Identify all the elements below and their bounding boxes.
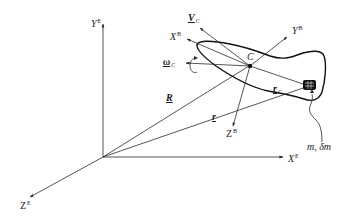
mass-element-icon: [303, 80, 316, 90]
earth-y-superscript: E: [98, 18, 102, 24]
aircraft-body-outline: [197, 41, 326, 100]
earth-x-axis-label: XE: [288, 153, 299, 164]
body-z-symbol: Z: [226, 128, 232, 139]
angular-velocity-label: ωC: [163, 57, 175, 68]
angular-velocity-symbol: ω: [163, 56, 170, 67]
earth-z-symbol: Z: [20, 200, 26, 211]
rotation-arrowhead-icon: [194, 56, 198, 60]
body-z-superscript: B: [233, 128, 237, 134]
position-R-label: R: [166, 93, 173, 103]
earth-z-axis-label: ZE: [20, 200, 31, 211]
mass-element-label: m, δm: [307, 142, 331, 152]
body-z-axis: [233, 66, 250, 126]
center-of-mass-symbol: C: [247, 51, 254, 62]
angular-velocity-subscript: C: [171, 62, 175, 68]
vector-r-line: [103, 87, 306, 157]
body-z-axis-label: ZB: [226, 128, 237, 139]
earth-y-symbol: Y: [91, 18, 97, 29]
position-r-symbol: r: [212, 111, 216, 122]
earth-z-axis: [30, 157, 103, 197]
body-y-symbol: Y: [292, 25, 298, 36]
body-x-axis: [187, 39, 250, 66]
position-rc-label: rC: [273, 84, 282, 95]
body-x-symbol: X: [170, 31, 176, 42]
body-y-superscript: B: [299, 25, 303, 31]
body-x-axis-label: XB: [170, 31, 181, 42]
position-R-symbol: R: [166, 92, 173, 103]
position-r-label: r: [212, 112, 216, 122]
earth-x-symbol: X: [288, 153, 294, 164]
earth-y-axis-label: YE: [91, 18, 101, 29]
earth-x-superscript: E: [295, 153, 299, 159]
earth-z-superscript: E: [27, 200, 31, 206]
body-y-axis-label: YB: [292, 25, 303, 36]
mass-element-text: m, δm: [307, 141, 331, 152]
velocity-symbol: V: [188, 12, 195, 23]
position-rc-symbol: r: [273, 83, 277, 94]
mass-leader-line: [309, 94, 322, 142]
center-of-mass-label: C: [247, 52, 254, 62]
vector-rc-line: [250, 66, 306, 85]
velocity-label: VC: [188, 13, 200, 24]
rotation-arrow-icon: [190, 58, 197, 73]
position-rc-subscript: C: [278, 89, 282, 95]
angular-velocity-vector: [186, 63, 250, 66]
body-x-superscript: B: [177, 31, 181, 37]
center-of-mass-point: [248, 64, 252, 68]
vector-R-line: [103, 66, 249, 157]
velocity-subscript: C: [196, 18, 200, 24]
